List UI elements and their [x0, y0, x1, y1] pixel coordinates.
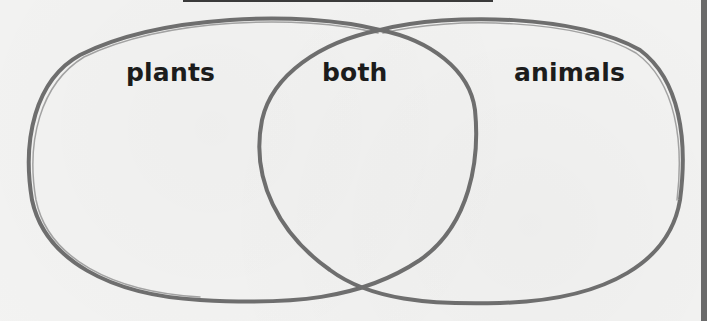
intersection-label: both — [322, 58, 388, 87]
venn-circle-plants — [29, 19, 476, 302]
set-label-animals: animals — [514, 58, 625, 87]
venn-diagram — [0, 0, 707, 321]
page-edge — [701, 0, 707, 321]
set-label-plants: plants — [126, 58, 215, 87]
worksheet-page: plants both animals — [0, 0, 707, 321]
